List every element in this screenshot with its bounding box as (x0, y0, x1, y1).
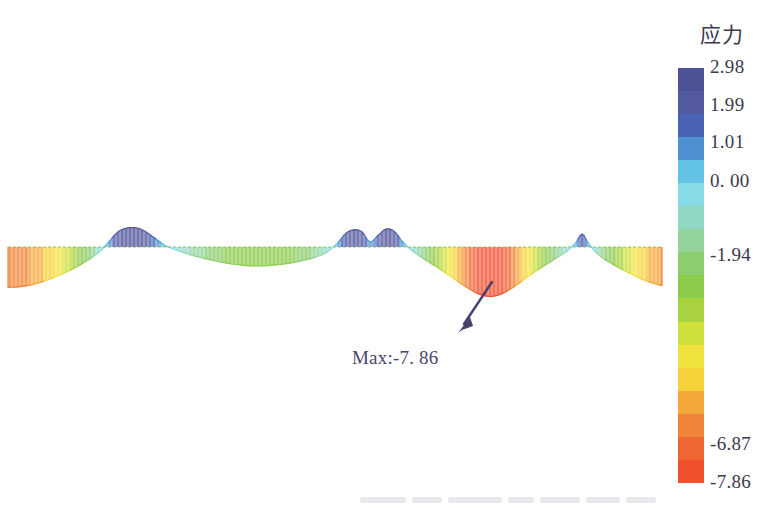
stress-fill-strip (611, 247, 612, 264)
stress-fill-strip (148, 233, 149, 247)
stress-fill-strip (132, 227, 133, 247)
stress-fill-strip (647, 247, 648, 282)
stress-fill-strip (152, 236, 153, 247)
stress-fill-strip (64, 247, 65, 273)
stress-fill-strip (428, 247, 429, 262)
stress-fill-strip (204, 247, 205, 259)
footer-text-blotch (508, 497, 534, 503)
stress-fill-strip (360, 231, 361, 247)
stress-fill-strip (659, 247, 660, 285)
colorbar-segment (678, 460, 704, 483)
stress-fill-strip (28, 247, 29, 285)
stress-fill-strip (615, 247, 616, 266)
stress-fill-strip (643, 247, 644, 280)
stress-fill-strip (63, 247, 64, 274)
stress-fill-strip (387, 229, 388, 247)
footer-text-blotch (626, 497, 656, 503)
stress-fill-strip (432, 247, 433, 265)
stress-fill-strip (199, 247, 200, 257)
stress-fill-strip (384, 229, 385, 247)
stress-fill-strip (115, 234, 116, 247)
stress-fill-strip (555, 247, 556, 259)
stress-fill-strip (24, 247, 25, 286)
stress-fill-strip (640, 247, 641, 279)
stress-fill-strip (287, 247, 288, 264)
stress-fill-strip (608, 247, 609, 262)
stress-fill-strip (32, 247, 33, 285)
stress-fill-strip (135, 228, 136, 247)
stress-fill-strip (123, 229, 124, 247)
stress-fill-strip (52, 247, 53, 278)
stress-fill-strip (523, 247, 524, 280)
stress-fill-strip (236, 247, 237, 265)
stress-fill-strip (308, 247, 309, 259)
stress-fill-strip (76, 247, 77, 267)
stress-fill-strip (447, 247, 448, 275)
stress-fill-strip (228, 247, 229, 264)
stress-fill-strip (540, 247, 541, 268)
stress-fill-strip (435, 247, 436, 266)
stress-fill-strip (259, 247, 260, 266)
stress-fill-strip (195, 247, 196, 256)
stress-fill-strip (660, 247, 661, 285)
stress-fill-strip (128, 228, 129, 247)
footer-text-blotch (586, 497, 620, 503)
stress-fill-strip (240, 247, 241, 265)
stress-fill-strip (19, 247, 20, 287)
stress-fill-strip (355, 230, 356, 247)
stress-fill-strip (296, 247, 297, 262)
stress-fill-strip (83, 247, 84, 263)
stress-fill-strip (648, 247, 649, 282)
stress-fill-strip (139, 228, 140, 247)
stress-fill-strip (131, 227, 132, 247)
stress-fill-strip (120, 230, 121, 247)
stress-fill-strip (319, 247, 320, 256)
stress-fill-strip (256, 247, 257, 266)
stress-fill-strip (55, 247, 56, 277)
stress-fill-strip (539, 247, 540, 269)
stress-fill-strip (307, 247, 308, 260)
colorbar-segment (678, 91, 704, 114)
stress-fill-strip (547, 247, 548, 264)
max-value-label: Max:-7. 86 (352, 347, 438, 369)
stress-fill-strip (395, 232, 396, 247)
stress-fill-strip (535, 247, 536, 272)
stress-fill-strip (656, 247, 657, 284)
stress-fill-strip (71, 247, 72, 270)
stress-fill-strip (119, 231, 120, 247)
stress-fill-strip (67, 247, 68, 272)
stress-fill-strip (79, 247, 80, 265)
stress-fill-strip (80, 247, 81, 265)
colorbar-segment (678, 229, 704, 252)
stress-fill-strip (396, 233, 397, 247)
stress-fill-strip (144, 231, 145, 247)
stress-fill-strip (652, 247, 653, 283)
stress-fill-strip (316, 247, 317, 257)
stress-fill-strip (419, 247, 420, 256)
colorbar-tick-label: -1.94 (710, 244, 751, 266)
colorbar-segment (678, 345, 704, 368)
stress-fill-strip (528, 247, 529, 277)
stress-fill-strip (379, 234, 380, 247)
stress-fill-strip (311, 247, 312, 259)
stress-fill-strip (147, 233, 148, 247)
stress-fill-strip (536, 247, 537, 271)
stress-fill-strip (443, 247, 444, 272)
stress-fill-strip (560, 247, 561, 256)
stress-fill-strip (220, 247, 221, 262)
stress-fill-strip (232, 247, 233, 264)
stress-fill-strip (47, 247, 48, 280)
stress-fill-strip (383, 230, 384, 247)
stress-fill-strip (59, 247, 60, 275)
stress-fill-strip (140, 229, 141, 247)
stress-fill-strip (619, 247, 620, 268)
stress-fill-strip (347, 232, 348, 247)
stress-fill-strip (532, 247, 533, 274)
colorbar-segment (678, 137, 704, 160)
stress-fill-strip (48, 247, 49, 280)
stress-fill-strip (371, 242, 372, 247)
stress-fill-strip (260, 247, 261, 266)
colorbar-segment (678, 160, 704, 183)
footer-text-blotch (412, 497, 442, 503)
stress-fill-strip (607, 247, 608, 261)
